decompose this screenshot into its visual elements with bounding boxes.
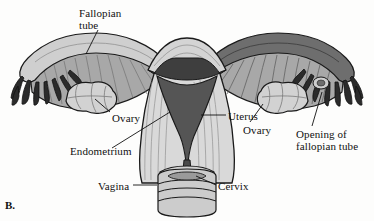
label-opening-line2: fallopian tube	[296, 140, 358, 152]
opening-of-fallopian-tube	[313, 77, 329, 89]
label-cervix: Cervix	[218, 180, 249, 192]
label-uterus: Uterus	[228, 110, 258, 122]
label-fallopian-tube: Fallopian tube	[79, 7, 121, 31]
vaginal-fornix	[168, 172, 206, 180]
female-reproductive-system-diagram	[0, 0, 374, 221]
label-ovary-left: Ovary	[112, 112, 140, 124]
left-ovary	[66, 82, 117, 114]
label-fallopian-tube-line2: tube	[79, 19, 121, 31]
label-opening-of-fallopian-tube: Opening of fallopian tube	[296, 128, 358, 152]
label-fallopian-tube-line1: Fallopian	[79, 7, 121, 19]
label-ovary-right: Ovary	[243, 124, 271, 136]
panel-letter: B.	[5, 199, 15, 211]
label-endometrium: Endometrium	[70, 145, 132, 157]
figure-panel-b: Fallopian tube Ovary Endometrium Vagina …	[0, 0, 374, 221]
label-vagina: Vagina	[98, 180, 129, 192]
right-ovary	[257, 82, 308, 114]
vagina	[158, 169, 216, 217]
label-opening-line1: Opening of	[296, 128, 358, 140]
